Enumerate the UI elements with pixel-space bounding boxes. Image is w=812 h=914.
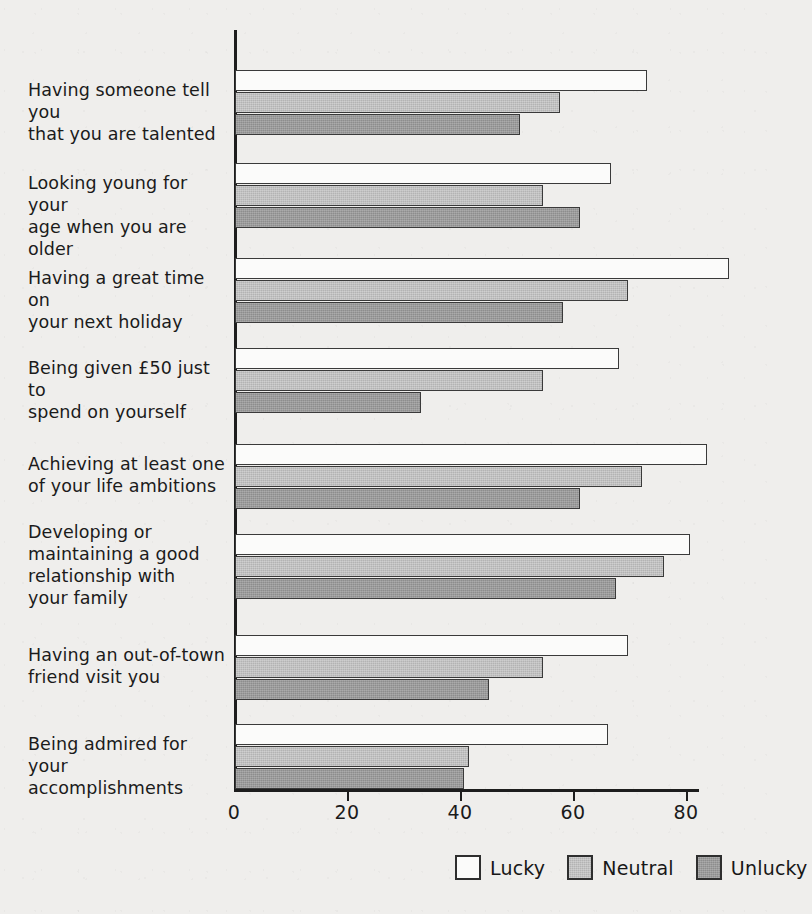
plot-area <box>234 30 771 790</box>
bar-unlucky[interactable] <box>235 578 616 599</box>
x-tick-label: 40 <box>448 801 473 823</box>
bar-lucky[interactable] <box>235 70 647 91</box>
legend-label: Lucky <box>490 857 545 879</box>
bar-neutral[interactable] <box>235 370 543 391</box>
x-tick-mark <box>686 792 688 801</box>
legend-label: Unlucky <box>731 857 808 879</box>
bar-unlucky[interactable] <box>235 114 520 135</box>
bar-neutral[interactable] <box>235 185 543 206</box>
bar-unlucky[interactable] <box>235 207 580 228</box>
x-tick-mark <box>573 792 575 801</box>
bar-lucky[interactable] <box>235 258 729 279</box>
bar-unlucky[interactable] <box>235 302 563 323</box>
category-label: Having a great time on your next holiday <box>28 267 228 333</box>
bar-unlucky[interactable] <box>235 392 421 413</box>
bar-unlucky[interactable] <box>235 679 489 700</box>
category-label: Being admired for your accomplishments <box>28 733 228 799</box>
bar-neutral[interactable] <box>235 746 469 767</box>
bar-unlucky[interactable] <box>235 488 580 509</box>
bar-lucky[interactable] <box>235 534 690 555</box>
category-label: Achieving at least one of your life ambi… <box>28 453 228 497</box>
legend-item-neutral[interactable]: Neutral <box>567 855 674 880</box>
bar-lucky[interactable] <box>235 348 619 369</box>
category-label: Looking young for your age when you are … <box>28 172 228 260</box>
bar-neutral[interactable] <box>235 466 642 487</box>
bar-lucky[interactable] <box>235 635 628 656</box>
legend-item-unlucky[interactable]: Unlucky <box>696 855 808 880</box>
bar-neutral[interactable] <box>235 92 560 113</box>
bar-lucky[interactable] <box>235 163 611 184</box>
legend-label: Neutral <box>602 857 674 879</box>
legend-swatch-icon <box>696 855 722 880</box>
category-label: Having someone tell you that you are tal… <box>28 79 228 145</box>
bar-unlucky[interactable] <box>235 768 464 789</box>
x-tick-label: 20 <box>335 801 360 823</box>
chart-legend: LuckyNeutralUnlucky <box>455 855 812 880</box>
legend-item-lucky[interactable]: Lucky <box>455 855 545 880</box>
bar-lucky[interactable] <box>235 444 707 465</box>
bar-neutral[interactable] <box>235 556 664 577</box>
bar-lucky[interactable] <box>235 724 608 745</box>
category-label: Being given £50 just to spend on yoursel… <box>28 357 228 423</box>
x-tick-mark <box>460 792 462 801</box>
x-tick-mark <box>347 792 349 801</box>
bar-neutral[interactable] <box>235 657 543 678</box>
category-label: Developing or maintaining a good relatio… <box>28 521 228 609</box>
x-tick-label: 60 <box>561 801 586 823</box>
legend-swatch-icon <box>455 855 481 880</box>
category-label: Having an out-of-town friend visit you <box>28 644 228 688</box>
legend-swatch-icon <box>567 855 593 880</box>
x-axis-line <box>234 789 699 792</box>
x-tick-label: 0 <box>228 801 240 823</box>
bar-neutral[interactable] <box>235 280 628 301</box>
x-tick-label: 80 <box>674 801 699 823</box>
